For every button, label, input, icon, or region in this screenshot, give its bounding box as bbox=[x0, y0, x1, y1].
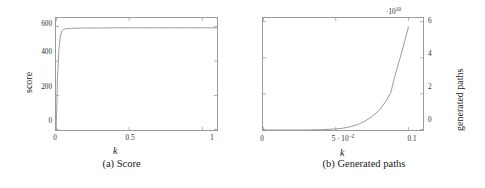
ytick-label-paths-2: 2 bbox=[428, 84, 450, 91]
plot-area-score bbox=[55, 17, 218, 131]
xtick-label-paths-0: 0 bbox=[255, 136, 269, 143]
caption-subfigure-b: (b) Generated paths bbox=[243, 158, 485, 169]
ytick-label-score-0: 0 bbox=[32, 118, 52, 125]
ytick-label-paths-4: 4 bbox=[428, 51, 450, 58]
ytick-label-paths-0: 0 bbox=[428, 117, 450, 124]
xtick-label-paths-5e-2: 5 · 10−2 bbox=[316, 134, 370, 144]
xtick-label-score-0: 0 bbox=[48, 135, 62, 142]
subfigure-score: 600 400 200 0 0 0.5 1 k score (a) Score bbox=[0, 0, 243, 188]
score-line-chart bbox=[56, 18, 217, 130]
yaxis-title-paths: generated paths bbox=[455, 69, 465, 131]
figure-row: 600 400 200 0 0 0.5 1 k score (a) Score … bbox=[0, 0, 485, 188]
xaxis-title-paths: k bbox=[340, 148, 344, 158]
xtick-label-score-1: 1 bbox=[205, 135, 219, 142]
xaxis-title-score: k bbox=[113, 146, 117, 156]
xtick-label-score-0point5: 0.5 bbox=[122, 135, 138, 142]
yaxis-title-score: score bbox=[24, 72, 34, 93]
ytick-label-score-200: 200 bbox=[32, 84, 52, 91]
generated-paths-line-chart bbox=[263, 18, 423, 130]
ytick-label-score-400: 400 bbox=[32, 49, 52, 56]
ytick-label-paths-6: 6 bbox=[428, 18, 450, 25]
xtick-label-paths-0point1: 0.1 bbox=[403, 136, 421, 143]
yaxis-exponent-label: ·1010 bbox=[386, 7, 401, 17]
subfigure-generated-paths: ·1010 6 4 2 0 0 5 · 10−2 0.1 k generated… bbox=[243, 0, 485, 188]
caption-subfigure-a: (a) Score bbox=[0, 158, 243, 169]
ytick-label-score-600: 600 bbox=[32, 21, 52, 28]
plot-area-generated-paths bbox=[262, 17, 424, 131]
